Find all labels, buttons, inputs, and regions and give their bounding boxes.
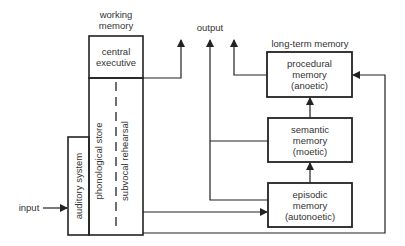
working-memory-label: working memory	[86, 9, 146, 31]
procedural-memory-label: procedural memory (anoetic)	[267, 58, 352, 91]
semantic-memory-label: semantic memory (moetic)	[268, 124, 352, 157]
long-term-memory-label: long-term memory	[260, 38, 360, 49]
subvocal-rehearsal-label: subvocal rehearsal	[119, 116, 131, 206]
auditory-system-label: auditory system	[73, 141, 85, 231]
input-label: input	[14, 202, 44, 213]
episodic-memory-label: episodic memory (autonoetic)	[268, 189, 352, 222]
central-executive-label: central executive	[89, 46, 143, 68]
output-label: output	[190, 22, 230, 33]
phonological-store-label: phonological store	[93, 116, 105, 206]
episodic-output-line	[210, 40, 268, 200]
central-executive-output-arrow	[143, 40, 181, 78]
